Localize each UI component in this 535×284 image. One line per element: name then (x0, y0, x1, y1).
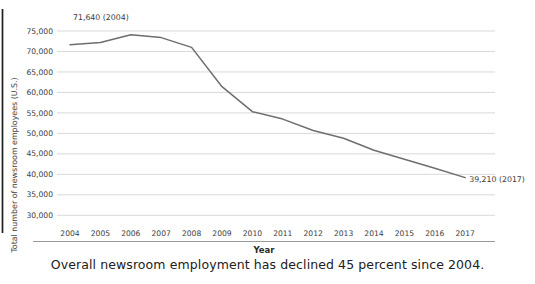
employment-line-series (70, 35, 465, 178)
y-tick-label: 70,000 (26, 47, 53, 56)
y-tick-label: 45,000 (26, 149, 53, 158)
x-tick-label: 2010 (243, 229, 262, 238)
x-tick-label: 2017 (456, 229, 475, 238)
y-tick-label: 60,000 (26, 88, 53, 97)
x-tick-label: 2013 (334, 229, 353, 238)
y-tick-label: 35,000 (26, 190, 53, 199)
y-tick-label: 55,000 (26, 109, 53, 118)
y-axis-title: Total number of newsroom employees (U.S.… (10, 77, 19, 253)
x-tick-label: 2012 (304, 229, 323, 238)
chart-caption: Overall newsroom employment has declined… (0, 257, 535, 272)
x-tick-label: 2015 (395, 229, 414, 238)
y-tick-label: 75,000 (26, 27, 53, 36)
x-tick-label: 2004 (60, 229, 79, 238)
newsroom-employment-figure: 75,00070,00065,00060,00055,00050,00045,0… (0, 0, 535, 284)
y-tick-label: 65,000 (26, 68, 53, 77)
x-tick-label: 2014 (364, 229, 383, 238)
x-axis-title: Year (252, 245, 275, 255)
point-annotation: 39,210 (2017) (469, 175, 525, 184)
x-tick-label: 2005 (91, 229, 110, 238)
point-annotation: 71,640 (2004) (73, 13, 129, 22)
x-tick-label: 2007 (152, 229, 171, 238)
x-tick-label: 2009 (212, 229, 231, 238)
x-tick-label: 2006 (121, 229, 140, 238)
y-tick-label: 50,000 (26, 129, 53, 138)
x-tick-label: 2008 (182, 229, 201, 238)
chart-svg: 75,00070,00065,00060,00055,00050,00045,0… (0, 0, 535, 256)
y-tick-label: 30,000 (26, 211, 53, 220)
x-tick-label: 2011 (273, 229, 292, 238)
y-tick-label: 40,000 (26, 170, 53, 179)
x-tick-label: 2016 (425, 229, 444, 238)
